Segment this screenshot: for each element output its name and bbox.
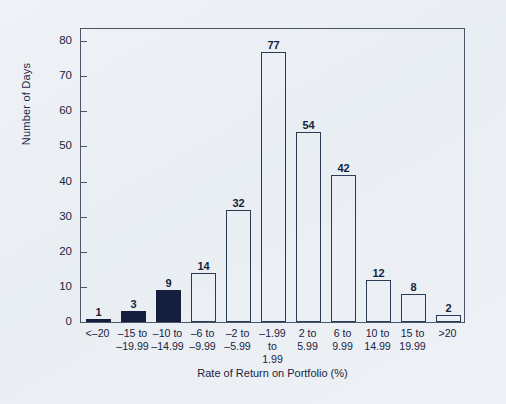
x-axis-title: Rate of Return on Portfolio (%) bbox=[80, 367, 465, 379]
bar: 32 bbox=[226, 210, 251, 322]
bar: 14 bbox=[191, 273, 216, 322]
bar: 42 bbox=[331, 175, 356, 323]
bar: 12 bbox=[366, 280, 391, 322]
bar-value-label: 1 bbox=[95, 306, 101, 318]
y-tick-label: 70 bbox=[32, 69, 72, 81]
y-tick-label: 30 bbox=[32, 210, 72, 222]
bar-value-label: 3 bbox=[130, 298, 136, 310]
bar-value-label: 2 bbox=[445, 302, 451, 314]
bar: 1 bbox=[86, 319, 111, 323]
x-tick-label: >20 bbox=[425, 327, 470, 340]
bar-value-label: 54 bbox=[302, 119, 314, 131]
x-tick-label-line: 19.99 bbox=[390, 340, 435, 353]
bar: 54 bbox=[296, 132, 321, 322]
bar: 9 bbox=[156, 290, 181, 322]
chart-figure: Number of Days 01020304050607080 1391432… bbox=[0, 0, 506, 404]
bar: 77 bbox=[261, 52, 286, 322]
bar: 3 bbox=[121, 311, 146, 322]
bar-value-label: 9 bbox=[165, 277, 171, 289]
bar-value-label: 42 bbox=[337, 162, 349, 174]
bar-value-label: 14 bbox=[197, 260, 209, 272]
bar-value-label: 12 bbox=[372, 267, 384, 279]
bar: 2 bbox=[436, 315, 461, 322]
y-axis-title: Number of Days bbox=[20, 34, 32, 174]
bar-value-label: 8 bbox=[410, 281, 416, 293]
y-tick-label: 40 bbox=[32, 175, 72, 187]
plot-area: 13914327754421282 bbox=[80, 28, 465, 323]
bar: 8 bbox=[401, 294, 426, 322]
y-tick-label: 50 bbox=[32, 139, 72, 151]
y-tick-label: 0 bbox=[32, 315, 72, 327]
y-tick-label: 20 bbox=[32, 245, 72, 257]
bar-value-label: 32 bbox=[232, 197, 244, 209]
bar-value-label: 77 bbox=[267, 39, 279, 51]
y-tick-label: 10 bbox=[32, 280, 72, 292]
x-tick-label-line: >20 bbox=[425, 327, 470, 340]
x-tick-label-line: 1.99 bbox=[250, 353, 295, 366]
y-tick-label: 60 bbox=[32, 104, 72, 116]
y-tick-label: 80 bbox=[32, 34, 72, 46]
